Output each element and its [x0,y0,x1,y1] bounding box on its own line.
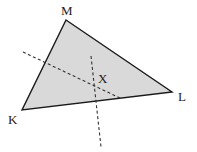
triangle-diagram: M K L X [0,0,197,152]
vertex-label-K: K [8,112,18,127]
triangle-KLM [22,20,172,110]
vertex-label-M: M [61,3,73,18]
point-label-X: X [98,71,108,86]
vertex-label-L: L [178,89,186,104]
